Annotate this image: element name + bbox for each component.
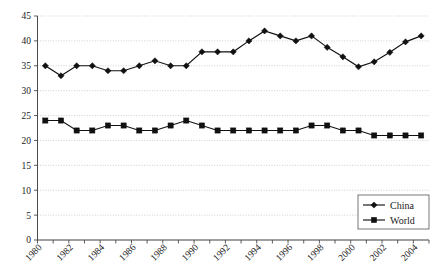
data-point-world-2000: [356, 128, 361, 133]
data-point-china-1991: [214, 49, 220, 55]
chart-legend: ChinaWorld: [358, 195, 429, 229]
legend-label-world: World: [390, 215, 415, 226]
y-tick-label-10: 10: [22, 186, 32, 196]
data-point-world-1983: [90, 128, 95, 133]
data-point-world-1988: [168, 123, 173, 128]
y-tick-label-5: 5: [26, 211, 31, 221]
data-point-china-2001: [371, 59, 377, 65]
data-point-world-1990: [199, 123, 204, 128]
data-point-china-1987: [152, 58, 158, 64]
data-point-china-2004: [418, 33, 424, 39]
data-point-world-1999: [340, 128, 345, 133]
y-tick-label-35: 35: [22, 61, 32, 71]
x-axis-tick-labels: 1980198219841986198819901992199419961998…: [23, 242, 420, 263]
data-point-world-1985: [121, 123, 126, 128]
x-tick-label-1992: 1992: [211, 242, 232, 263]
data-point-china-1999: [340, 54, 346, 60]
x-tick-label-2002: 2002: [368, 242, 389, 263]
x-tick-label-1994: 1994: [242, 242, 263, 263]
x-tick-label-1988: 1988: [149, 242, 170, 263]
data-point-world-1982: [74, 128, 79, 133]
data-point-world-1980: [43, 118, 48, 123]
data-point-world-1993: [246, 128, 251, 133]
series-china: [42, 28, 424, 79]
x-tick-label-2004: 2004: [399, 242, 420, 263]
data-point-china-1982: [74, 63, 80, 69]
data-point-china-1981: [58, 73, 64, 79]
data-point-china-1986: [136, 63, 142, 69]
y-tick-label-20: 20: [22, 136, 32, 146]
legend-label-china: China: [390, 200, 414, 211]
data-point-world-1998: [325, 123, 330, 128]
x-tick-label-1998: 1998: [305, 242, 326, 263]
data-point-world-1996: [293, 128, 298, 133]
data-point-world-1992: [231, 128, 236, 133]
y-tick-label-15: 15: [22, 161, 32, 171]
data-point-world-1991: [215, 128, 220, 133]
data-point-china-1985: [121, 68, 127, 74]
data-point-china-1988: [168, 63, 174, 69]
series-world: [43, 118, 424, 138]
data-point-china-1995: [277, 33, 283, 39]
y-tick-label-30: 30: [22, 86, 32, 96]
data-point-china-1983: [89, 63, 95, 69]
data-point-world-1989: [184, 118, 189, 123]
data-point-world-1987: [152, 128, 157, 133]
data-series-group: [42, 28, 424, 138]
line-chart: 051015202530354045 198019821984198619881…: [0, 0, 437, 273]
data-point-world-2001: [372, 133, 377, 138]
data-point-world-2004: [419, 133, 424, 138]
legend-marker-square-icon: [371, 217, 376, 222]
data-point-china-1994: [261, 28, 267, 34]
x-tick-label-1984: 1984: [86, 242, 107, 263]
y-tick-label-25: 25: [22, 111, 32, 121]
data-point-china-2002: [387, 49, 393, 55]
data-point-world-1997: [309, 123, 314, 128]
data-point-china-2000: [355, 64, 361, 70]
data-point-world-1986: [137, 128, 142, 133]
x-tick-label-1990: 1990: [180, 242, 201, 263]
data-point-world-2002: [387, 133, 392, 138]
data-point-world-2003: [403, 133, 408, 138]
x-tick-label-1982: 1982: [55, 242, 76, 263]
y-tick-label-0: 0: [26, 235, 31, 245]
chart-container: 051015202530354045 198019821984198619881…: [0, 0, 437, 273]
y-axis-tick-labels: 051015202530354045: [22, 11, 32, 245]
data-point-world-1995: [278, 128, 283, 133]
x-tick-label-1986: 1986: [117, 242, 138, 263]
data-point-world-1984: [105, 123, 110, 128]
data-point-world-1981: [58, 118, 63, 123]
data-point-china-2003: [402, 39, 408, 45]
data-point-china-1996: [293, 38, 299, 44]
data-point-china-1984: [105, 68, 111, 74]
y-tick-label-45: 45: [22, 11, 32, 21]
data-point-world-1994: [262, 128, 267, 133]
y-tick-label-40: 40: [22, 36, 32, 46]
x-tick-label-2000: 2000: [336, 242, 357, 263]
data-point-china-1980: [42, 63, 48, 69]
x-tick-label-1996: 1996: [274, 242, 295, 263]
